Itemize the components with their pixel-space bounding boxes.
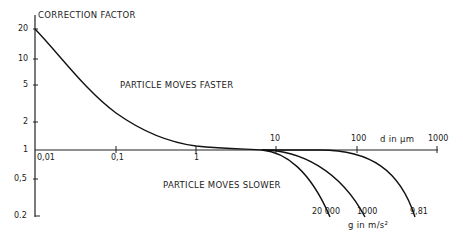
y-tick-0-5: 0,5 <box>14 174 27 183</box>
x-tick-0-01: 0,01 <box>37 153 55 162</box>
y-axis-label: CORRECTION FACTOR <box>38 10 136 20</box>
x-tick-1000: 1000 <box>428 134 448 143</box>
x-tick-100: 100 <box>351 134 366 143</box>
annotation-slower: PARTICLE MOVES SLOWER <box>163 180 281 190</box>
g-label-20000: 20 000 <box>312 207 340 216</box>
y-tick-0-2: 0.2 <box>14 211 27 220</box>
y-tick-2: 2 <box>23 117 28 126</box>
x-tick-10: 10 <box>270 134 280 143</box>
x-tick-0-1: 0,1 <box>111 153 124 162</box>
g-label-1000: 1000 <box>357 207 377 216</box>
annotation-faster: PARTICLE MOVES FASTER <box>120 80 233 90</box>
chart-canvas <box>0 0 463 242</box>
y-tick-5: 5 <box>23 80 28 89</box>
x-axis-unit: d in µm <box>380 134 414 144</box>
x-tick-1: 1 <box>194 153 199 162</box>
y-tick-1: 1 <box>23 145 28 154</box>
y-tick-20: 20 <box>18 24 28 33</box>
g-label-9-81: 9,81 <box>410 207 428 216</box>
g-unit-label: g in m/s² <box>348 220 388 230</box>
y-tick-10: 10 <box>18 54 28 63</box>
